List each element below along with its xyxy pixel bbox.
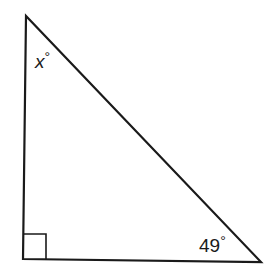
angle-x-label: x° [34, 49, 50, 72]
triangle [23, 16, 261, 262]
right-angle-marker [23, 234, 46, 259]
angle-49-label: 49° [199, 233, 226, 256]
triangle-diagram: x° 49° [0, 0, 271, 273]
